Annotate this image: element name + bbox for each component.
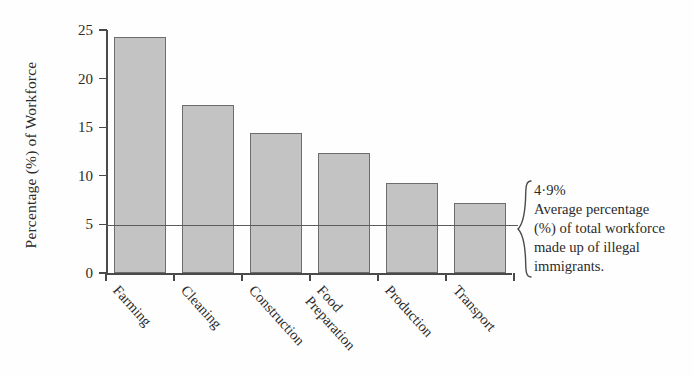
y-tick: 25: [99, 29, 107, 30]
annotation-line: Average percentage: [534, 200, 690, 219]
x-axis-label: Production: [382, 282, 437, 340]
bar: [250, 133, 302, 273]
x-tick: [377, 273, 378, 281]
y-tick-label: 15: [78, 119, 93, 136]
x-axis-label-line: Production: [382, 282, 437, 340]
y-tick-label: 5: [86, 216, 94, 233]
bar: [318, 153, 370, 273]
y-axis-line: [106, 30, 108, 273]
bar: [454, 203, 506, 273]
x-axis-label-line: Construction: [246, 282, 308, 349]
y-tick-label: 0: [86, 264, 94, 281]
y-tick: 10: [99, 175, 107, 176]
curly-brace-icon: [516, 180, 534, 278]
x-tick: [105, 273, 106, 281]
x-axis-label: Cleaning: [178, 282, 225, 332]
y-tick: 15: [99, 127, 107, 128]
bar: [386, 183, 438, 273]
annotation-line: immigrants.: [534, 257, 690, 276]
y-tick-label: 10: [78, 167, 93, 184]
x-axis-label-line: Farming: [110, 282, 155, 329]
average-reference-line: [106, 225, 518, 226]
x-tick: [241, 273, 242, 281]
x-axis-label: Transport: [450, 282, 499, 334]
x-tick: [173, 273, 174, 281]
y-axis-title: Percentage (%) of Workforce: [16, 10, 46, 300]
annotation-line: 4·9%: [534, 181, 690, 200]
y-tick-label: 20: [78, 70, 93, 87]
bar: [182, 105, 234, 273]
chart-figure: Percentage (%) of Workforce 0510152025 F…: [0, 0, 694, 376]
plot-area: 0510152025: [106, 30, 512, 273]
average-annotation-text: 4·9%Average percentage(%) of total workf…: [534, 181, 690, 276]
x-axis-label: FoodPreparation: [302, 282, 371, 353]
annotation-line: made up of illegal: [534, 238, 690, 257]
y-tick-label: 25: [78, 22, 93, 39]
x-tick: [513, 273, 514, 281]
annotation-line: (%) of total workforce: [534, 219, 690, 238]
x-axis-label-line: Cleaning: [178, 282, 225, 332]
bar: [114, 37, 166, 273]
x-tick: [445, 273, 446, 281]
x-tick: [309, 273, 310, 281]
x-axis-label: Farming: [110, 282, 155, 329]
x-axis-label: Construction: [246, 282, 308, 349]
y-tick: 20: [99, 78, 107, 79]
x-axis-label-line: Transport: [450, 282, 499, 334]
